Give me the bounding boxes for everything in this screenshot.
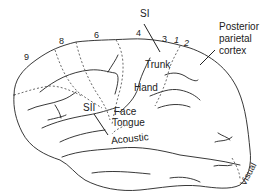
label-tongue: Tongue [112, 118, 145, 128]
area-number-3: 3 [162, 35, 167, 44]
label-trunk: Trunk [145, 60, 170, 70]
label-hand: Hand [134, 83, 158, 93]
area-number-1: 1 [174, 36, 179, 45]
label-parietal: parietal [219, 34, 252, 44]
label-si: SI [140, 9, 149, 19]
label-cortex: cortex [219, 46, 246, 56]
area-number-6: 6 [94, 31, 99, 40]
area-number-9: 9 [24, 53, 29, 62]
sylvian-fissure [42, 108, 115, 128]
label-sii: SII [83, 103, 95, 113]
boundary-area-1-2 [155, 46, 180, 106]
sii-leader-line [94, 114, 108, 135]
boundary-area-8-9 [55, 50, 102, 108]
boundary-visual [232, 158, 240, 180]
area-number-8: 8 [59, 37, 64, 46]
area-number-4: 4 [136, 29, 141, 38]
label-posterior: Posterior [219, 22, 259, 32]
posterior-parietal-leader-line [200, 50, 215, 65]
label-face: Face [114, 107, 136, 117]
area-number-2: 2 [184, 39, 189, 48]
si-leader-line [144, 24, 160, 52]
